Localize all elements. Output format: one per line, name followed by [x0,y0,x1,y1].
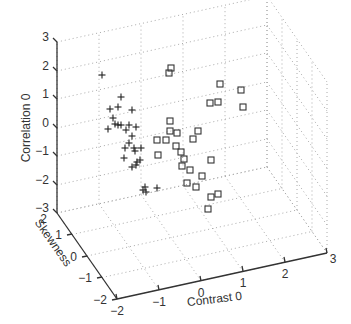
plus-marker [129,133,136,140]
square-marker [208,194,214,200]
x-tick-label: −2 [110,304,124,318]
square-marker [199,173,205,179]
z-tick-label: −1 [35,144,49,158]
z-tick-label: −2 [35,173,49,187]
grid-back-horizontal [57,82,267,128]
z-tick-label: 1 [42,87,49,101]
grid-floor-y [225,176,285,262]
x-tick-label: 3 [330,252,337,266]
plus-marker [133,124,140,131]
square-marker [167,128,173,134]
y-tick-label: 2 [40,212,47,226]
grid-back-horizontal [57,0,267,42]
square-marker [217,81,223,87]
y-tick [112,299,117,300]
grid-floor-y [141,195,201,281]
plus-marker [105,126,112,133]
grid-side-horizontal [267,139,327,225]
square-marker [179,163,185,169]
grid-floor-y [267,167,327,253]
plus-marker [126,122,133,129]
y-tick [67,234,72,235]
z-tick-label: 2 [42,59,49,73]
plus-marker [118,94,125,101]
grid-back-horizontal [57,53,267,99]
y-tick-label: −1 [78,271,92,285]
grid-floor-y [183,185,243,271]
grid-side-horizontal [267,110,327,196]
square-marker [155,152,161,158]
square-marker [208,157,214,163]
z-tick [53,38,57,42]
plus-marker [122,145,129,152]
z-axis-label: Correlation 0 [19,93,33,162]
x-axis-label: Contrast 0 [186,289,243,310]
square-marker [240,104,246,110]
grid-floor-x [87,210,297,256]
y-tick-label: 1 [55,228,62,242]
square-marker [184,180,190,186]
x-tick-label: 2 [282,267,289,281]
square-marker [173,143,179,149]
axes [53,38,327,300]
square-marker [215,99,221,105]
plus-marker [126,140,133,147]
grid-floor-x [102,232,312,278]
plus-marker [121,155,128,162]
x-tick-label: 0 [198,286,205,300]
plus-marker [138,145,145,152]
square-marker [207,100,213,106]
square-marker [205,206,211,212]
plus-marker [110,115,117,122]
square-marker [193,184,199,190]
square-marker [190,136,196,142]
y-tick [97,277,102,278]
y-axis-label: Skewness [32,216,75,269]
y-tick-label: −2 [93,293,107,307]
plus-marker [99,72,106,79]
square-marker [154,137,160,143]
plus-marker [118,122,125,129]
scatter-3d-plot: Correlation 0 Skewness Contrast 0 3210−1… [0,0,351,324]
square-marker [174,130,180,136]
z-tick-label: 0 [42,116,49,130]
grid-lines [57,0,327,299]
x-tick [158,285,159,290]
grid-floor-x [72,189,282,235]
square-marker [215,191,221,197]
plus-marker [129,107,136,114]
grid-floor-y [99,204,159,290]
grid-back-horizontal [57,25,267,71]
z-tick-label: 3 [42,30,49,44]
x-tick-label: −1 [152,295,166,309]
data-points [99,65,247,212]
labels: Correlation 0 Skewness Contrast 0 3210−1… [19,30,337,318]
y-tick [82,256,87,257]
x-tick [284,257,285,262]
square-marker [178,149,184,155]
grid-back-horizontal [57,139,267,185]
x-tick [242,266,243,271]
square-marker [187,167,193,173]
y-tick-label: 0 [70,250,77,264]
square-marker [163,137,169,143]
plus-marker [115,104,122,111]
grid-side-horizontal [267,25,327,111]
square-marker [167,118,173,124]
x-tick-label: 1 [240,276,247,290]
grid-side-horizontal [267,82,327,168]
grid-back-horizontal [57,110,267,156]
grid-floor-x [57,167,267,213]
plus-marker [107,106,114,113]
square-marker [195,128,201,134]
